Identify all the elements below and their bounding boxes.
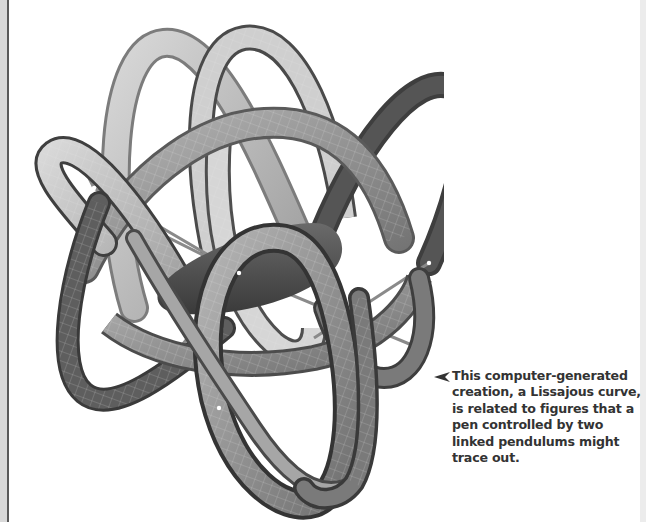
lissajous-figure [14,8,444,520]
figure-caption: This computer-generated creation, a Liss… [434,368,634,466]
lissajous-figure-illustration-icon [14,8,444,520]
caption-line: This computer-generated [452,368,641,384]
caption-line: pen controlled by two [452,417,641,433]
caption-line: is related to figures that a [452,401,641,417]
page-gutter-left [0,0,9,522]
caption-line: creation, a Lissajous curve, [452,384,641,400]
caption-line: trace out. [452,450,641,466]
caption-line: linked pendulums might [452,434,641,450]
left-pointer-arrow-icon [434,372,452,382]
caption-text: This computer-generated creation, a Liss… [452,368,641,466]
